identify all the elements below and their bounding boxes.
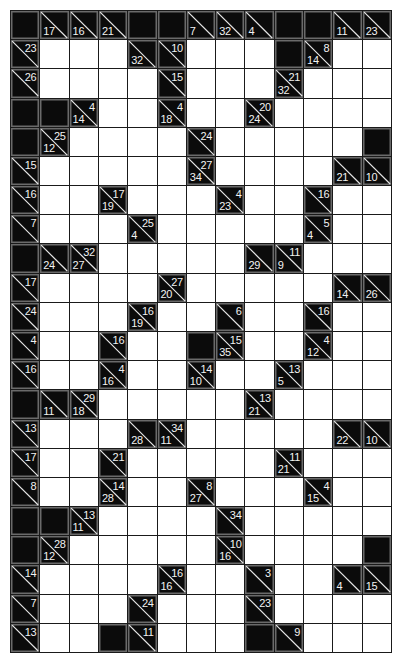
entry-cell[interactable]: [99, 536, 127, 564]
entry-cell[interactable]: [333, 624, 361, 652]
entry-cell[interactable]: [245, 303, 273, 331]
entry-cell[interactable]: [128, 536, 156, 564]
entry-cell[interactable]: [40, 361, 68, 389]
entry-cell[interactable]: [158, 186, 186, 214]
entry-cell[interactable]: [363, 478, 391, 506]
entry-cell[interactable]: [216, 420, 244, 448]
entry-cell[interactable]: [187, 390, 215, 418]
entry-cell[interactable]: [333, 449, 361, 477]
entry-cell[interactable]: [245, 507, 273, 535]
entry-cell[interactable]: [333, 507, 361, 535]
entry-cell[interactable]: [333, 69, 361, 97]
entry-cell[interactable]: [216, 390, 244, 418]
entry-cell[interactable]: [275, 186, 303, 214]
entry-cell[interactable]: [216, 624, 244, 652]
entry-cell[interactable]: [40, 332, 68, 360]
entry-cell[interactable]: [158, 507, 186, 535]
entry-cell[interactable]: [99, 274, 127, 302]
entry-cell[interactable]: [333, 536, 361, 564]
entry-cell[interactable]: [187, 186, 215, 214]
entry-cell[interactable]: [158, 244, 186, 272]
entry-cell[interactable]: [128, 99, 156, 127]
entry-cell[interactable]: [363, 244, 391, 272]
entry-cell[interactable]: [187, 624, 215, 652]
entry-cell[interactable]: [333, 215, 361, 243]
entry-cell[interactable]: [333, 99, 361, 127]
entry-cell[interactable]: [70, 40, 98, 68]
entry-cell[interactable]: [275, 99, 303, 127]
entry-cell[interactable]: [128, 390, 156, 418]
entry-cell[interactable]: [275, 565, 303, 593]
entry-cell[interactable]: [304, 420, 332, 448]
entry-cell[interactable]: [158, 303, 186, 331]
entry-cell[interactable]: [99, 303, 127, 331]
entry-cell[interactable]: [187, 303, 215, 331]
entry-cell[interactable]: [304, 536, 332, 564]
entry-cell[interactable]: [128, 157, 156, 185]
entry-cell[interactable]: [40, 186, 68, 214]
entry-cell[interactable]: [40, 69, 68, 97]
entry-cell[interactable]: [216, 274, 244, 302]
entry-cell[interactable]: [99, 215, 127, 243]
entry-cell[interactable]: [333, 303, 361, 331]
entry-cell[interactable]: [70, 595, 98, 623]
entry-cell[interactable]: [128, 274, 156, 302]
entry-cell[interactable]: [245, 157, 273, 185]
entry-cell[interactable]: [363, 390, 391, 418]
entry-cell[interactable]: [363, 361, 391, 389]
entry-cell[interactable]: [333, 40, 361, 68]
entry-cell[interactable]: [333, 332, 361, 360]
entry-cell[interactable]: [70, 536, 98, 564]
entry-cell[interactable]: [363, 186, 391, 214]
entry-cell[interactable]: [333, 186, 361, 214]
entry-cell[interactable]: [245, 69, 273, 97]
entry-cell[interactable]: [128, 186, 156, 214]
entry-cell[interactable]: [275, 303, 303, 331]
entry-cell[interactable]: [99, 157, 127, 185]
entry-cell[interactable]: [187, 69, 215, 97]
entry-cell[interactable]: [187, 449, 215, 477]
entry-cell[interactable]: [187, 215, 215, 243]
entry-cell[interactable]: [40, 40, 68, 68]
entry-cell[interactable]: [216, 244, 244, 272]
entry-cell[interactable]: [245, 186, 273, 214]
entry-cell[interactable]: [333, 390, 361, 418]
entry-cell[interactable]: [216, 99, 244, 127]
entry-cell[interactable]: [70, 332, 98, 360]
entry-cell[interactable]: [99, 69, 127, 97]
entry-cell[interactable]: [216, 449, 244, 477]
entry-cell[interactable]: [245, 536, 273, 564]
entry-cell[interactable]: [70, 361, 98, 389]
entry-cell[interactable]: [275, 332, 303, 360]
entry-cell[interactable]: [363, 332, 391, 360]
entry-cell[interactable]: [304, 624, 332, 652]
entry-cell[interactable]: [70, 420, 98, 448]
entry-cell[interactable]: [304, 274, 332, 302]
entry-cell[interactable]: [40, 595, 68, 623]
entry-cell[interactable]: [40, 624, 68, 652]
entry-cell[interactable]: [158, 536, 186, 564]
entry-cell[interactable]: [304, 390, 332, 418]
entry-cell[interactable]: [128, 507, 156, 535]
entry-cell[interactable]: [40, 420, 68, 448]
entry-cell[interactable]: [333, 361, 361, 389]
entry-cell[interactable]: [40, 215, 68, 243]
entry-cell[interactable]: [216, 361, 244, 389]
entry-cell[interactable]: [187, 99, 215, 127]
entry-cell[interactable]: [245, 128, 273, 156]
entry-cell[interactable]: [40, 274, 68, 302]
entry-cell[interactable]: [275, 128, 303, 156]
entry-cell[interactable]: [187, 40, 215, 68]
entry-cell[interactable]: [99, 244, 127, 272]
entry-cell[interactable]: [216, 128, 244, 156]
entry-cell[interactable]: [99, 565, 127, 593]
entry-cell[interactable]: [99, 507, 127, 535]
entry-cell[interactable]: [275, 478, 303, 506]
entry-cell[interactable]: [216, 157, 244, 185]
entry-cell[interactable]: [40, 157, 68, 185]
entry-cell[interactable]: [187, 274, 215, 302]
entry-cell[interactable]: [216, 40, 244, 68]
entry-cell[interactable]: [275, 390, 303, 418]
entry-cell[interactable]: [158, 128, 186, 156]
entry-cell[interactable]: [128, 478, 156, 506]
